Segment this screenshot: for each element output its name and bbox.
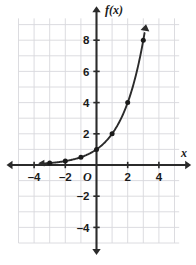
data-point bbox=[94, 147, 99, 152]
x-tick-label: 4 bbox=[156, 171, 163, 183]
y-tick-label: 2 bbox=[83, 128, 89, 140]
x-tick-label: –4 bbox=[28, 171, 41, 183]
y-tick-label: 6 bbox=[83, 66, 89, 78]
y-tick-label: 8 bbox=[83, 34, 90, 46]
data-point bbox=[78, 155, 83, 160]
y-axis-label: f(x) bbox=[105, 3, 123, 17]
y-tick-label: 4 bbox=[83, 97, 90, 109]
data-point bbox=[47, 161, 52, 166]
x-axis-label: x bbox=[180, 146, 187, 160]
origin-label: O bbox=[83, 170, 92, 184]
data-point bbox=[63, 159, 68, 164]
data-point bbox=[110, 131, 115, 136]
x-tick-label: –2 bbox=[59, 171, 72, 183]
coordinate-plane: –4–224 8642–2–4 f(x) x O bbox=[0, 0, 196, 265]
graph-figure: –4–224 8642–2–4 f(x) x O bbox=[0, 0, 196, 265]
y-tick-label: –2 bbox=[77, 190, 90, 202]
y-tick-label: –4 bbox=[77, 222, 90, 234]
data-point bbox=[125, 100, 130, 105]
x-tick-label: 2 bbox=[124, 171, 130, 183]
data-point bbox=[141, 38, 146, 43]
